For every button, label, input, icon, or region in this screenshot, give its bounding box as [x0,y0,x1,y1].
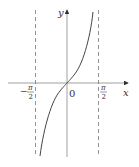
right-two: 2 [102,93,106,101]
x-axis-label: x [123,87,129,98]
y-axis-label: y [57,7,64,18]
tangent-graph: y x 0 − π 2 π 2 [0,0,139,167]
origin-label: 0 [69,88,75,99]
left-two: 2 [29,93,33,101]
tan-curve [40,12,93,156]
right-pi: π [100,84,106,92]
neg-sign: − [20,86,28,96]
left-pi: π [27,84,33,92]
